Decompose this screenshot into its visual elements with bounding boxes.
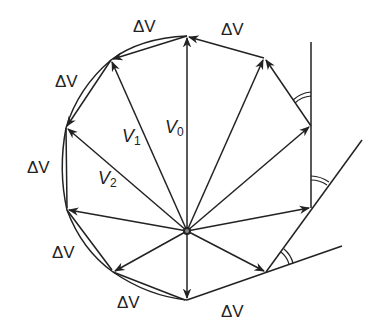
bottom-line <box>187 246 342 300</box>
label-dv-upper-left: ΔV <box>55 73 78 90</box>
label-dv-bottom-right: ΔV <box>221 303 244 320</box>
label-v2-text: V <box>98 168 110 188</box>
label-dv-left: ΔV <box>27 159 50 176</box>
label-v1: V1 <box>122 127 141 147</box>
label-v1-text: V <box>122 126 134 146</box>
label-v0: V0 <box>165 118 184 138</box>
label-v2: V2 <box>98 169 117 189</box>
label-dv-top-right: ΔV <box>221 21 244 38</box>
label-v0-text: V <box>165 117 177 137</box>
label-v1-subscript: 1 <box>134 134 141 148</box>
label-dv-lower-left: ΔV <box>52 244 75 261</box>
label-dv-bottom-left: ΔV <box>117 294 140 311</box>
arc-path <box>62 36 187 300</box>
label-dv-top: ΔV <box>133 18 156 35</box>
slanted-line <box>266 140 362 272</box>
diagram-svg <box>0 0 372 336</box>
velocity-vector-diagram: ΔV ΔV ΔV ΔV ΔV ΔV ΔV ΔV V0 V1 V2 <box>0 0 372 336</box>
label-v0-subscript: 0 <box>177 125 184 139</box>
label-v2-subscript: 2 <box>110 176 117 190</box>
